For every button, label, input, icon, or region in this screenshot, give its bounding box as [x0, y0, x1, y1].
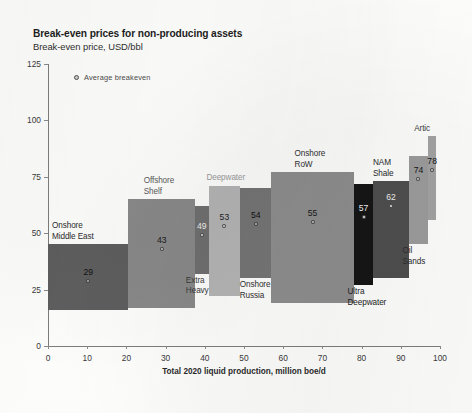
- chart-segment[interactable]: 53: [209, 186, 240, 297]
- segment-category-label: Onshore Russia: [240, 280, 271, 301]
- x-tick-mark: [48, 346, 49, 349]
- y-tick-mark: [44, 64, 48, 65]
- segment-category-label: Deepwater: [206, 173, 245, 184]
- y-tick-label: 75: [32, 172, 41, 182]
- chart-segment[interactable]: 29: [48, 244, 128, 309]
- segment-value-label: 57: [359, 204, 369, 213]
- x-tick-label: 60: [279, 353, 288, 363]
- x-tick-label: 40: [200, 353, 209, 363]
- x-tick-label: 30: [161, 353, 170, 363]
- x-tick-mark: [205, 346, 206, 349]
- segment-value-label: 53: [220, 213, 230, 222]
- x-tick-mark: [283, 346, 284, 349]
- y-tick-mark: [44, 177, 48, 178]
- x-tick-mark: [126, 346, 127, 349]
- y-tick-label: 50: [32, 228, 41, 238]
- x-tick-label: 10: [83, 353, 92, 363]
- x-tick-label: 100: [433, 353, 447, 363]
- segment-category-label: Oil Sands: [402, 246, 425, 267]
- legend-label-average-breakeven: Average breakeven: [84, 73, 151, 82]
- segment-category-label: Artic: [414, 124, 430, 135]
- average-breakeven-dot: [160, 247, 164, 251]
- average-breakeven-dot: [389, 204, 393, 208]
- x-tick-label: 50: [239, 353, 248, 363]
- segment-value-label: 43: [157, 236, 167, 245]
- average-breakeven-dot: [222, 224, 226, 228]
- average-breakeven-marker-icon: [74, 75, 79, 80]
- chart-segment[interactable]: 78: [428, 136, 436, 219]
- average-breakeven-dot: [311, 220, 315, 224]
- average-breakeven-dot: [430, 168, 434, 172]
- segment-value-label: 54: [251, 211, 261, 220]
- y-tick-mark: [44, 233, 48, 234]
- average-breakeven-dot: [254, 222, 258, 226]
- page-title: Break-even prices for non-producing asse…: [33, 28, 242, 39]
- chart-legend: Average breakeven: [74, 73, 151, 82]
- segment-category-label: Onshore Middle East: [52, 221, 94, 242]
- plot-area: Average breakeven 0255075100125 01020304…: [48, 64, 440, 346]
- y-tick-label: 0: [36, 341, 41, 351]
- x-tick-mark: [440, 346, 441, 349]
- y-tick-mark: [44, 120, 48, 121]
- chart-segment[interactable]: 49: [195, 206, 209, 274]
- x-tick-label: 70: [318, 353, 327, 363]
- x-tick-mark: [87, 346, 88, 349]
- segment-value-label: 78: [427, 157, 437, 166]
- average-breakeven-dot: [362, 215, 366, 219]
- segment-value-label: 29: [83, 268, 93, 277]
- chart-segment[interactable]: 54: [240, 188, 271, 278]
- segment-value-label: 62: [386, 193, 396, 202]
- chart-figure: Break-even prices for non-producing asse…: [0, 0, 472, 413]
- chart-segment[interactable]: 55: [271, 172, 353, 303]
- x-tick-label: 20: [122, 353, 131, 363]
- x-tick-mark: [166, 346, 167, 349]
- segment-category-label: NAM Shale: [373, 158, 393, 179]
- segment-category-label: Offshore Shelf: [144, 176, 174, 197]
- x-tick-mark: [401, 346, 402, 349]
- x-tick-label: 80: [357, 353, 366, 363]
- chart-subtitle: Break-even price, USD/bbl: [33, 41, 143, 52]
- y-tick-label: 25: [32, 285, 41, 295]
- x-tick-mark: [244, 346, 245, 349]
- chart-segment[interactable]: 74: [409, 156, 429, 244]
- average-breakeven-dot: [416, 177, 420, 181]
- segment-category-label: Onshore RoW: [295, 149, 326, 170]
- segment-category-label: Ultra Deepwater: [348, 287, 387, 308]
- x-tick-mark: [362, 346, 363, 349]
- x-tick-mark: [322, 346, 323, 349]
- chart-segment[interactable]: 57: [354, 184, 374, 286]
- y-tick-label: 100: [27, 115, 41, 125]
- y-tick-label: 125: [27, 59, 41, 69]
- x-axis-title: Total 2020 liquid production, million bo…: [162, 367, 326, 376]
- average-breakeven-dot: [200, 233, 204, 237]
- segment-value-label: 74: [414, 166, 424, 175]
- x-tick-label: 0: [46, 353, 51, 363]
- average-breakeven-dot: [86, 279, 90, 283]
- segment-value-label: 49: [197, 222, 207, 231]
- x-tick-label: 90: [396, 353, 405, 363]
- segment-value-label: 55: [308, 209, 318, 218]
